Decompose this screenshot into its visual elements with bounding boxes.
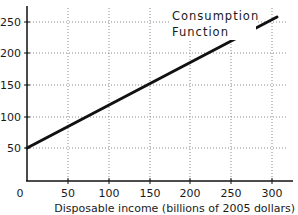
y-tick-150: 150 [0,79,21,92]
consumption-chart: 250 200 150 100 50 0 50 100 150 200 250 … [0,0,298,215]
y-tick-50: 50 [7,142,21,155]
x-tick-50: 50 [61,187,75,200]
y-tick-250: 250 [0,16,21,29]
annotation-line-1: Consumption [172,9,259,23]
y-tick-200: 200 [0,47,21,60]
y-tick-labels: 250 200 150 100 50 [0,16,21,155]
x-tick-150: 150 [140,187,161,200]
x-axis-label: Disposable income (billions of 2005 doll… [54,202,295,215]
x-tick-200: 200 [180,187,201,200]
x-tick-100: 100 [99,187,120,200]
x-tick-250: 250 [221,187,242,200]
x-tick-labels: 0 50 100 150 200 250 300 [17,187,283,200]
x-tick-0: 0 [17,187,24,200]
x-tick-300: 300 [262,187,283,200]
annotation-line-2: Function [172,25,229,39]
y-tick-100: 100 [0,111,21,124]
